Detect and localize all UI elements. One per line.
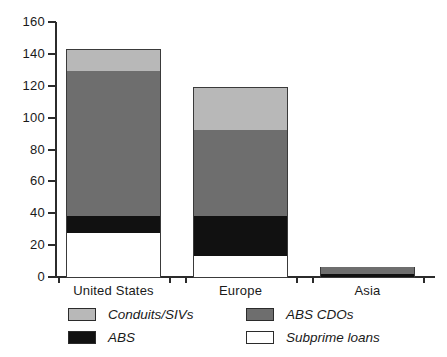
legend-item-abs: ABS <box>68 329 135 346</box>
bar-segment-abs <box>66 216 161 234</box>
x-tick-0-0 <box>58 276 60 283</box>
y-tick-60 <box>48 180 56 182</box>
y-tick-label-60: 60 <box>5 174 45 187</box>
bar-segment-subprime-loans <box>193 256 288 278</box>
y-tick-label-20: 20 <box>5 238 45 251</box>
legend-swatch-conduits-sivs <box>68 308 96 321</box>
bar-segment-abs-cdos <box>193 130 288 216</box>
y-tick-120 <box>48 85 56 87</box>
bar-segment-abs-cdos <box>66 71 161 216</box>
y-tick-40 <box>48 212 56 214</box>
legend-item-conduits-sivs: Conduits/SIVs <box>68 306 194 323</box>
legend-swatch-subprime-loans <box>246 331 274 344</box>
bar-segment-subprime-loans <box>66 233 161 278</box>
category-label-asia: Asia <box>295 283 440 298</box>
bar-segment-abs <box>320 274 415 278</box>
bar-segment-conduits-sivs <box>66 49 161 71</box>
y-tick-label-120: 120 <box>5 79 45 92</box>
x-tick-1-1 <box>296 276 298 283</box>
x-tick-2-1 <box>423 276 425 283</box>
bar-segment-conduits-sivs <box>193 87 288 130</box>
y-tick-label-80: 80 <box>5 143 45 156</box>
legend-label-abs: ABS <box>108 331 135 345</box>
chart-legend: Conduits/SIVs ABS CDOs ABS Subprime loan… <box>68 306 408 352</box>
bar-segment-abs <box>193 216 288 256</box>
legend-item-abs-cdos: ABS CDOs <box>246 306 354 323</box>
bar-europe <box>193 87 288 278</box>
y-tick-label-100: 100 <box>5 111 45 124</box>
category-label-europe: Europe <box>168 283 313 298</box>
x-tick-2-0 <box>312 276 314 283</box>
legend-item-subprime-loans: Subprime loans <box>246 329 380 346</box>
y-tick-160 <box>48 21 56 23</box>
bar-united-states <box>66 49 161 279</box>
plot-area: 160140120100806040200 United StatesEurop… <box>0 0 447 357</box>
legend-label-abs-cdos: ABS CDOs <box>286 308 354 322</box>
y-tick-label-40: 40 <box>5 206 45 219</box>
y-tick-80 <box>48 149 56 151</box>
y-tick-0 <box>48 276 56 278</box>
legend-swatch-abs-cdos <box>246 308 274 321</box>
y-tick-100 <box>48 117 56 119</box>
bar-segment-abs-cdos <box>320 267 415 274</box>
stacked-bar-chart: 160140120100806040200 United StatesEurop… <box>0 0 447 357</box>
bar-asia <box>320 267 415 278</box>
category-label-united-states: United States <box>41 283 186 298</box>
y-tick-20 <box>48 244 56 246</box>
y-tick-label-160: 160 <box>5 15 45 28</box>
legend-swatch-abs <box>68 331 96 344</box>
y-tick-label-0: 0 <box>5 270 45 283</box>
x-tick-0-1 <box>169 276 171 283</box>
y-tick-140 <box>48 53 56 55</box>
legend-label-conduits-sivs: Conduits/SIVs <box>108 308 194 322</box>
y-tick-label-140: 140 <box>5 47 45 60</box>
x-tick-1-0 <box>185 276 187 283</box>
legend-label-subprime-loans: Subprime loans <box>286 331 380 345</box>
